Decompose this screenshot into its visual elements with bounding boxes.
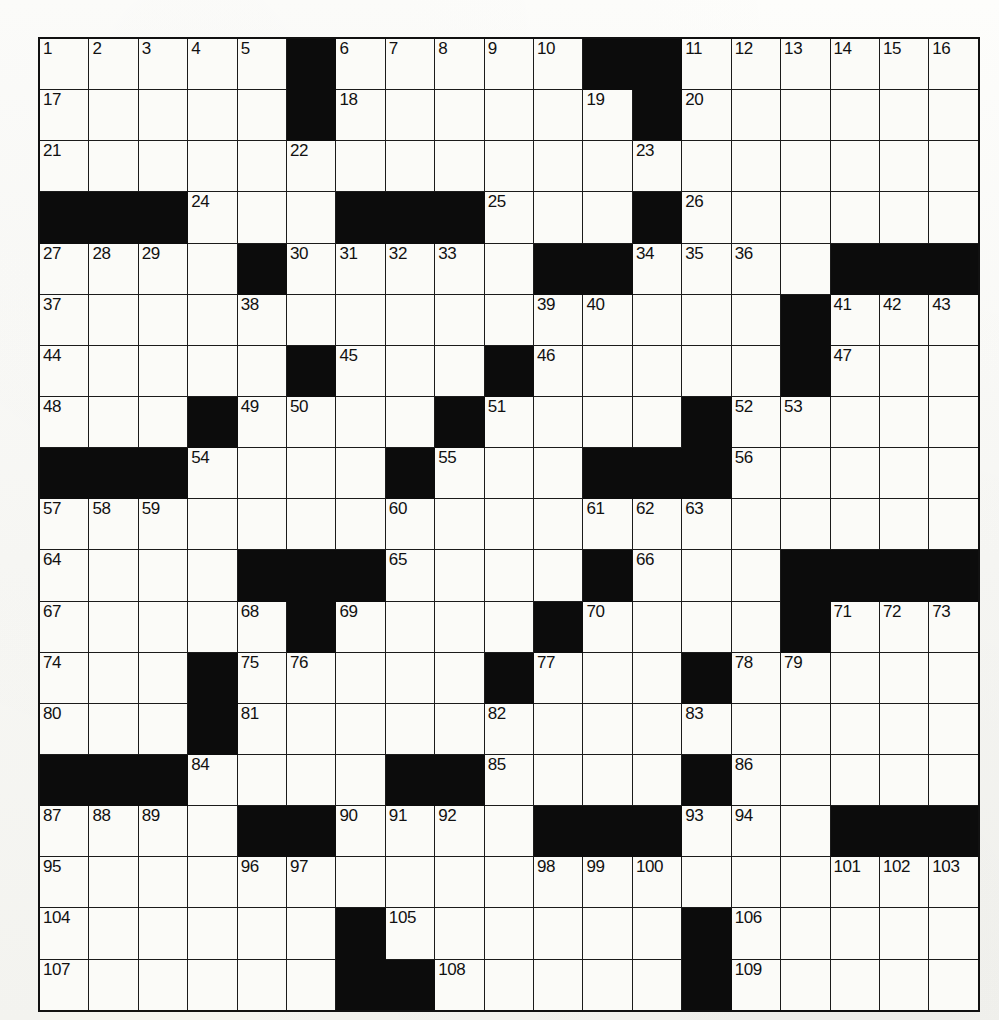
letter-cell[interactable] <box>879 499 928 550</box>
letter-cell[interactable] <box>385 703 434 754</box>
letter-cell[interactable] <box>731 703 780 754</box>
letter-cell[interactable] <box>731 294 780 345</box>
letter-cell[interactable]: 86 <box>731 754 780 805</box>
letter-cell[interactable] <box>484 141 533 192</box>
letter-cell[interactable]: 98 <box>534 857 583 908</box>
letter-cell[interactable]: 83 <box>682 703 731 754</box>
letter-cell[interactable] <box>534 192 583 243</box>
letter-cell[interactable]: 2 <box>89 38 138 90</box>
letter-cell[interactable]: 85 <box>484 754 533 805</box>
letter-cell[interactable]: 11 <box>682 38 731 90</box>
letter-cell[interactable]: 49 <box>237 396 286 447</box>
letter-cell[interactable]: 96 <box>237 857 286 908</box>
letter-cell[interactable] <box>435 550 484 601</box>
letter-cell[interactable]: 36 <box>731 243 780 294</box>
letter-cell[interactable]: 73 <box>929 601 979 652</box>
letter-cell[interactable]: 45 <box>336 345 385 396</box>
letter-cell[interactable] <box>781 959 830 1011</box>
letter-cell[interactable] <box>336 703 385 754</box>
letter-cell[interactable] <box>781 243 830 294</box>
letter-cell[interactable] <box>188 141 237 192</box>
letter-cell[interactable] <box>287 754 336 805</box>
letter-cell[interactable] <box>435 499 484 550</box>
letter-cell[interactable] <box>89 294 138 345</box>
letter-cell[interactable]: 21 <box>39 141 89 192</box>
letter-cell[interactable] <box>583 703 632 754</box>
letter-cell[interactable] <box>385 857 434 908</box>
letter-cell[interactable]: 28 <box>89 243 138 294</box>
letter-cell[interactable] <box>435 652 484 703</box>
letter-cell[interactable]: 33 <box>435 243 484 294</box>
letter-cell[interactable] <box>385 601 434 652</box>
letter-cell[interactable] <box>89 345 138 396</box>
letter-cell[interactable] <box>534 499 583 550</box>
letter-cell[interactable] <box>830 141 879 192</box>
letter-cell[interactable] <box>336 141 385 192</box>
letter-cell[interactable] <box>781 908 830 959</box>
letter-cell[interactable] <box>336 754 385 805</box>
letter-cell[interactable] <box>682 141 731 192</box>
letter-cell[interactable] <box>682 294 731 345</box>
letter-cell[interactable]: 68 <box>237 601 286 652</box>
letter-cell[interactable]: 63 <box>682 499 731 550</box>
letter-cell[interactable] <box>879 345 928 396</box>
letter-cell[interactable]: 51 <box>484 396 533 447</box>
letter-cell[interactable]: 54 <box>188 448 237 499</box>
letter-cell[interactable] <box>188 601 237 652</box>
letter-cell[interactable]: 48 <box>39 396 89 447</box>
letter-cell[interactable] <box>385 141 434 192</box>
letter-cell[interactable] <box>632 908 681 959</box>
letter-cell[interactable] <box>188 243 237 294</box>
letter-cell[interactable] <box>879 652 928 703</box>
letter-cell[interactable] <box>138 703 187 754</box>
letter-cell[interactable]: 93 <box>682 806 731 857</box>
letter-cell[interactable]: 91 <box>385 806 434 857</box>
letter-cell[interactable] <box>534 959 583 1011</box>
letter-cell[interactable] <box>879 754 928 805</box>
letter-cell[interactable] <box>188 959 237 1011</box>
letter-cell[interactable]: 17 <box>39 90 89 141</box>
letter-cell[interactable] <box>237 908 286 959</box>
letter-cell[interactable]: 10 <box>534 38 583 90</box>
letter-cell[interactable] <box>385 652 434 703</box>
letter-cell[interactable]: 13 <box>781 38 830 90</box>
letter-cell[interactable] <box>484 448 533 499</box>
letter-cell[interactable] <box>287 192 336 243</box>
letter-cell[interactable]: 78 <box>731 652 780 703</box>
letter-cell[interactable] <box>287 959 336 1011</box>
letter-cell[interactable] <box>781 754 830 805</box>
letter-cell[interactable]: 7 <box>385 38 434 90</box>
letter-cell[interactable]: 80 <box>39 703 89 754</box>
letter-cell[interactable]: 26 <box>682 192 731 243</box>
letter-cell[interactable] <box>682 857 731 908</box>
letter-cell[interactable] <box>188 90 237 141</box>
letter-cell[interactable]: 101 <box>830 857 879 908</box>
letter-cell[interactable]: 107 <box>39 959 89 1011</box>
letter-cell[interactable]: 27 <box>39 243 89 294</box>
letter-cell[interactable]: 65 <box>385 550 434 601</box>
letter-cell[interactable]: 47 <box>830 345 879 396</box>
letter-cell[interactable]: 40 <box>583 294 632 345</box>
letter-cell[interactable] <box>781 806 830 857</box>
letter-cell[interactable] <box>879 396 928 447</box>
letter-cell[interactable] <box>89 857 138 908</box>
letter-cell[interactable] <box>929 396 979 447</box>
letter-cell[interactable] <box>781 857 830 908</box>
letter-cell[interactable]: 87 <box>39 806 89 857</box>
letter-cell[interactable]: 100 <box>632 857 681 908</box>
letter-cell[interactable] <box>484 499 533 550</box>
letter-cell[interactable] <box>435 857 484 908</box>
letter-cell[interactable]: 18 <box>336 90 385 141</box>
letter-cell[interactable]: 66 <box>632 550 681 601</box>
letter-cell[interactable] <box>929 192 979 243</box>
letter-cell[interactable] <box>731 550 780 601</box>
letter-cell[interactable]: 19 <box>583 90 632 141</box>
letter-cell[interactable]: 84 <box>188 754 237 805</box>
letter-cell[interactable]: 103 <box>929 857 979 908</box>
letter-cell[interactable] <box>89 141 138 192</box>
letter-cell[interactable]: 106 <box>731 908 780 959</box>
letter-cell[interactable] <box>138 601 187 652</box>
letter-cell[interactable] <box>781 90 830 141</box>
letter-cell[interactable] <box>583 908 632 959</box>
letter-cell[interactable] <box>188 345 237 396</box>
